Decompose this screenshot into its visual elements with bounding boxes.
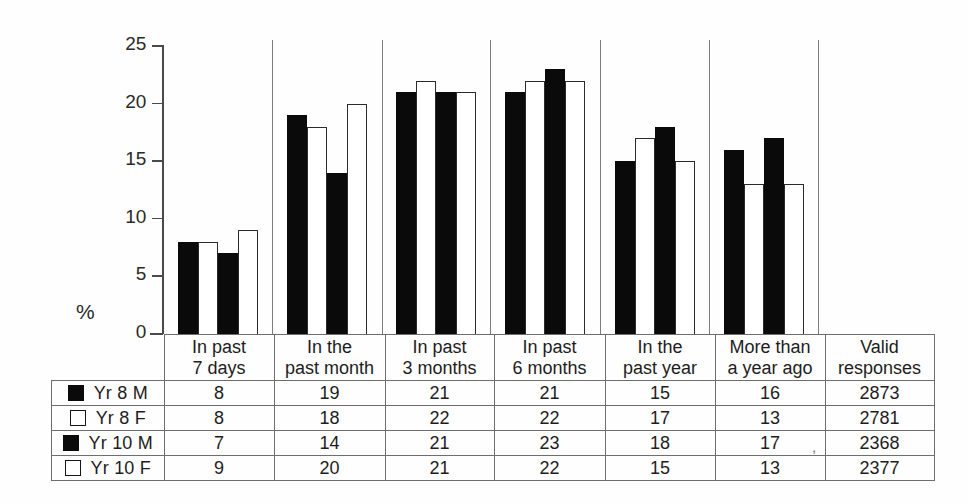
bar bbox=[744, 184, 764, 334]
table-cell: 2873 bbox=[825, 381, 934, 406]
table-cell: 8 bbox=[164, 406, 274, 431]
bar bbox=[287, 115, 307, 334]
table-column-header: More thana year ago bbox=[715, 335, 825, 381]
table-cell: 23 bbox=[494, 431, 605, 456]
header-line-2: 6 months bbox=[495, 358, 605, 379]
y-axis-unit-label: % bbox=[76, 300, 95, 324]
header-line-1: In past bbox=[495, 337, 605, 358]
table-row[interactable]: Yr 8 F818222217132781 bbox=[52, 406, 935, 431]
table-cell: 22 bbox=[494, 456, 605, 481]
y-axis-tick-mark bbox=[152, 45, 163, 47]
data-table-container: In past7 daysIn thepast monthIn past3 mo… bbox=[51, 334, 926, 479]
header-line-1: Valid bbox=[826, 337, 934, 358]
table-cell: 21 bbox=[385, 381, 494, 406]
y-axis-tick-mark bbox=[152, 218, 163, 220]
bar-group-bars bbox=[163, 40, 272, 334]
header-line-2: past year bbox=[606, 358, 715, 379]
group-separator-line bbox=[490, 40, 491, 334]
table-header-row: In past7 daysIn thepast monthIn past3 mo… bbox=[52, 335, 935, 381]
table-cell: 8 bbox=[164, 381, 274, 406]
table-cell: 2781 bbox=[825, 406, 934, 431]
y-axis-tick-label: 15 bbox=[100, 148, 146, 170]
group-separator-line bbox=[709, 40, 710, 334]
legend-header-spacer bbox=[52, 335, 165, 381]
bar-group bbox=[709, 40, 818, 334]
bar bbox=[178, 242, 198, 334]
header-line-2: 7 days bbox=[165, 358, 274, 379]
table-cell: 20 bbox=[274, 456, 385, 481]
header-line-2: 3 months bbox=[386, 358, 494, 379]
filled-square-icon bbox=[68, 385, 84, 401]
table-cell: 17 bbox=[605, 406, 715, 431]
plot-right-boundary-line bbox=[818, 40, 819, 334]
bar bbox=[396, 92, 416, 334]
bar bbox=[635, 138, 655, 334]
bar bbox=[764, 138, 784, 334]
bar bbox=[784, 184, 804, 334]
bar bbox=[615, 161, 635, 334]
hollow-square-icon bbox=[70, 410, 86, 426]
table-column-header: In past3 months bbox=[385, 335, 494, 381]
filled-square-icon bbox=[63, 435, 79, 451]
table-column-header: In past6 months bbox=[494, 335, 605, 381]
y-axis-tick-label: 10 bbox=[100, 206, 146, 228]
y-axis-tick-label: 25 bbox=[100, 33, 146, 55]
table-cell: 18 bbox=[605, 431, 715, 456]
header-line-1: In past bbox=[165, 337, 274, 358]
scan-artifact-mark: , bbox=[812, 438, 816, 455]
header-line-1: In the bbox=[606, 337, 715, 358]
y-axis-tick-mark bbox=[152, 160, 163, 162]
bar bbox=[347, 104, 367, 334]
table-column-header: Validresponses bbox=[825, 335, 934, 381]
header-line-2: past month bbox=[275, 358, 385, 379]
table-row[interactable]: Yr 8 M819212115162873 bbox=[52, 381, 935, 406]
series-label: Yr 10 F bbox=[91, 458, 151, 478]
y-axis-tick-mark bbox=[152, 103, 163, 105]
legend-row-label-cell[interactable]: Yr 8 M bbox=[52, 381, 165, 406]
bar-group-bars bbox=[600, 40, 709, 334]
table-row[interactable]: Yr 10 F920212215132377 bbox=[52, 456, 935, 481]
group-separator-line bbox=[600, 40, 601, 334]
table-cell: 19 bbox=[274, 381, 385, 406]
table-cell: 2377 bbox=[825, 456, 934, 481]
plot-area bbox=[163, 40, 818, 334]
bar bbox=[327, 173, 347, 334]
legend-row-label-cell[interactable]: Yr 10 F bbox=[52, 456, 165, 481]
bar-group bbox=[490, 40, 600, 334]
table-cell: 21 bbox=[494, 381, 605, 406]
y-axis-tick-label: 20 bbox=[100, 91, 146, 113]
bar bbox=[416, 81, 436, 334]
table-cell: 21 bbox=[385, 431, 494, 456]
figure-grouped-bar-chart-with-table: 2520151050 % In past7 daysIn thepast mon… bbox=[0, 0, 969, 504]
legend-row-label-cell[interactable]: Yr 8 F bbox=[52, 406, 165, 431]
bar bbox=[505, 92, 525, 334]
bar bbox=[724, 150, 744, 334]
series-label: Yr 10 M bbox=[89, 433, 153, 453]
table-body: Yr 8 M819212115162873Yr 8 F8182222171327… bbox=[52, 381, 935, 481]
bar-group-bars bbox=[382, 40, 490, 334]
bar bbox=[655, 127, 675, 334]
table-cell: 14 bbox=[274, 431, 385, 456]
bar bbox=[675, 161, 695, 334]
header-line-2: responses bbox=[826, 358, 934, 379]
bar-group bbox=[382, 40, 490, 334]
bar bbox=[456, 92, 476, 334]
bar-group-bars bbox=[272, 40, 382, 334]
table-cell: 17 bbox=[715, 431, 825, 456]
table-row[interactable]: Yr 10 M714212318172368 bbox=[52, 431, 935, 456]
bar bbox=[545, 69, 565, 334]
table-cell: 2368 bbox=[825, 431, 934, 456]
series-label: Yr 8 F bbox=[96, 408, 146, 428]
bar-group-bars bbox=[709, 40, 818, 334]
table-cell: 13 bbox=[715, 456, 825, 481]
table-cell: 7 bbox=[164, 431, 274, 456]
data-table: In past7 daysIn thepast monthIn past3 mo… bbox=[51, 334, 935, 481]
table-column-header: In thepast year bbox=[605, 335, 715, 381]
group-separator-line bbox=[382, 40, 383, 334]
bar-group bbox=[163, 40, 272, 334]
bar bbox=[436, 92, 456, 334]
y-axis-tick-mark bbox=[152, 275, 163, 277]
group-separator-line bbox=[272, 40, 273, 334]
legend-row-label-cell[interactable]: Yr 10 M bbox=[52, 431, 165, 456]
table-cell: 13 bbox=[715, 406, 825, 431]
